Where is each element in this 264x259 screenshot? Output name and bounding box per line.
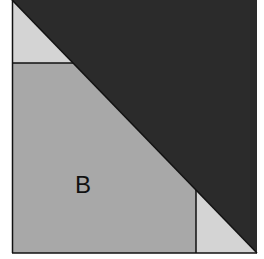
region-b-label: B: [75, 171, 91, 198]
diagram-canvas: B: [0, 0, 264, 259]
